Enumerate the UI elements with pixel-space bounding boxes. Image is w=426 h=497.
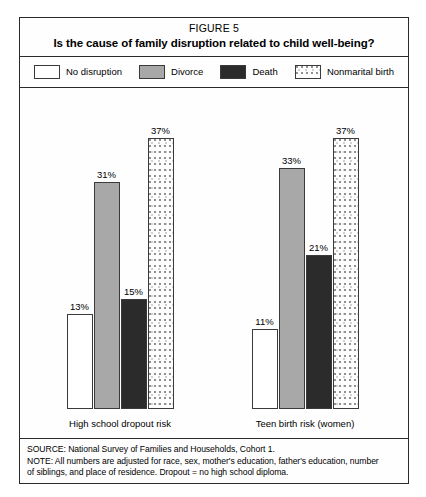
bar-value-label: 15% [124,286,143,297]
bar-rect[interactable] [121,299,147,409]
chart-plot-area: 13%31%15%37%High school dropout risk11%3… [20,88,408,438]
bar-value-label: 11% [255,316,273,327]
x-axis-group-label: Teen birth risk (women) [225,418,385,430]
bar-death[interactable]: 21% [306,242,332,409]
bar-divorce[interactable]: 33% [279,155,305,410]
bar-rect[interactable] [67,314,93,409]
bar-group-bars: 13%31%15%37% [40,118,200,409]
bar-value-label: 21% [309,242,328,253]
bar-group-0: 13%31%15%37%High school dropout risk [40,88,200,438]
x-axis-group-label: High school dropout risk [40,418,200,430]
bar-rect[interactable] [252,329,278,410]
chart-legend: No disruptionDivorceDeathNonmarital birt… [20,57,408,88]
bar-no-disruption[interactable]: 13% [67,301,93,409]
bar-nonmarital-birth[interactable]: 37% [333,125,359,409]
bar-death[interactable]: 15% [121,286,147,409]
white-swatch [34,65,60,79]
legend-item-no-disruption: No disruption [34,65,122,79]
bar-rect[interactable] [306,255,332,409]
figure-title: Is the cause of family disruption relate… [26,36,402,51]
gray-swatch [139,65,165,79]
legend-label: No disruption [66,66,122,77]
legend-label: Divorce [171,66,203,77]
black-swatch [220,65,246,79]
bar-nonmarital-birth[interactable]: 37% [148,125,174,409]
bar-value-label: 31% [97,169,116,180]
bar-group-1: 11%33%21%37%Teen birth risk (women) [225,88,385,438]
footnote-note-line-2: of siblings, and place of residence. Dro… [27,467,401,478]
legend-item-nonmarital-birth: Nonmarital birth [295,65,394,79]
footnote-note-line-1: NOTE: All numbers are adjusted for race,… [27,456,401,467]
footnote-source: SOURCE: National Survey of Families and … [27,444,401,455]
bar-rect[interactable] [94,182,120,409]
bar-value-label: 37% [336,125,355,136]
legend-item-divorce: Divorce [139,65,203,79]
legend-label: Death [252,66,277,77]
figure-footnote: SOURCE: National Survey of Families and … [20,438,408,483]
bar-value-label: 33% [282,155,301,166]
bar-divorce[interactable]: 31% [94,169,120,409]
bar-rect[interactable] [148,138,174,409]
bar-rect[interactable] [279,168,305,410]
legend-item-death: Death [220,65,277,79]
bar-value-label: 37% [151,125,170,136]
dotted-swatch [295,65,321,79]
bar-no-disruption[interactable]: 11% [252,316,278,410]
bar-value-label: 13% [70,301,89,312]
legend-label: Nonmarital birth [327,66,394,77]
bar-group-bars: 11%33%21%37% [225,118,385,409]
figure-title-block: FIGURE 5 Is the cause of family disrupti… [20,18,408,57]
figure-number: FIGURE 5 [26,22,402,35]
figure-frame: FIGURE 5 Is the cause of family disrupti… [19,17,409,484]
bar-rect[interactable] [333,138,359,409]
